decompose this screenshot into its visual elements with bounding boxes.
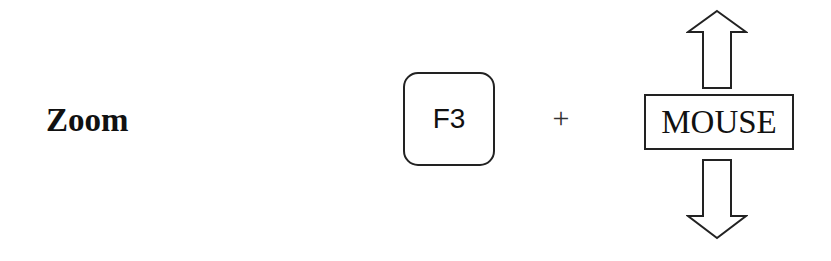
arrow-down-icon (686, 158, 748, 240)
f3-key-cap: F3 (403, 72, 495, 166)
mouse-label: MOUSE (661, 104, 777, 141)
plus-sign: + (549, 103, 573, 133)
key-label: F3 (433, 103, 466, 135)
mouse-box: MOUSE (644, 94, 794, 150)
arrow-up-icon (686, 9, 748, 91)
action-label: Zoom (46, 104, 129, 137)
